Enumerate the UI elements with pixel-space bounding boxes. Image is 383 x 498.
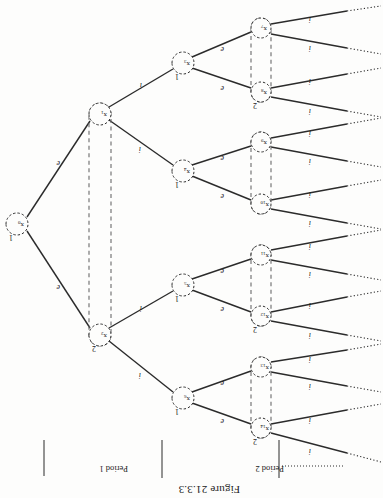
terminal-label-x10-b: i — [309, 190, 311, 199]
edge-label-x6-x14: e — [220, 417, 224, 426]
edge-label-x1-x3: i — [140, 81, 142, 90]
node-label-x14: x14 — [261, 424, 270, 433]
node-label-x13-base: x — [266, 364, 270, 372]
node-circle-x2 — [89, 324, 111, 346]
node-circle-x1 — [89, 103, 111, 125]
node-label-x3-base: x — [187, 60, 191, 68]
node-label-x5-sub: 5 — [184, 281, 187, 286]
node-circle-x5 — [172, 274, 194, 296]
infoset-x1-x2 — [89, 103, 111, 346]
edge-label-x6-x13: e — [220, 379, 224, 388]
edge-x0-x2 — [27, 231, 90, 328]
node-circle-x4 — [172, 160, 194, 182]
node-label-x12: x12 — [261, 312, 270, 321]
node-label-x0: x0 — [18, 220, 24, 229]
dotted-x12-b — [347, 291, 381, 297]
dotted-x9-b — [347, 118, 381, 124]
node-label-x13-sub: 13 — [261, 363, 266, 368]
dotted-x12-a — [347, 335, 381, 341]
node-label-x9-base: x — [264, 139, 268, 147]
terminal-dotted-continuations — [347, 6, 381, 462]
player-tag-x14: 2 — [253, 437, 257, 446]
dotted-x11-a — [347, 274, 381, 280]
edge-label-x0-x1: e — [56, 159, 60, 168]
player-tag-x5: 1 — [175, 294, 179, 303]
node-label-x14-sub: 14 — [261, 424, 266, 429]
figure-title: Figure 21.3.3 — [178, 484, 240, 496]
period-label-1: Period 1 — [99, 464, 128, 474]
player-tag-x2: 2 — [92, 344, 96, 353]
node-label-x1-sub: 1 — [101, 110, 104, 115]
node-label-x11: x11 — [261, 251, 269, 260]
player-tag-x6: 1 — [175, 407, 179, 416]
node-circle-x6 — [172, 387, 194, 409]
terminal-label-x9-b: i — [309, 129, 311, 138]
edge-x2-x6 — [109, 341, 173, 392]
node-label-x0-base: x — [21, 221, 25, 229]
node-label-x0-sub: 0 — [18, 220, 21, 225]
figure-canvas: Figure 21.3.3 Period 1 Period 2 x0 x1 x2… — [0, 0, 383, 498]
node-label-x6: x6 — [184, 394, 190, 403]
terminal-label-x12-a: i — [309, 331, 311, 340]
edge-x1-x4 — [109, 120, 173, 165]
node-label-x13: x13 — [261, 363, 270, 372]
node-label-x7-base: x — [264, 25, 268, 33]
node-label-x6-base: x — [187, 395, 191, 403]
dotted-x9-a — [347, 161, 381, 167]
edge-label-x4-x10: e — [220, 192, 224, 201]
node-label-x10: x10 — [261, 200, 270, 209]
edge-label-x3-x8: e — [220, 84, 224, 93]
node-label-x8: x8 — [261, 88, 267, 97]
edge-label-x2-x6: i — [139, 371, 141, 380]
node-label-x2-base: x — [104, 332, 108, 340]
node-label-x14-base: x — [266, 425, 270, 433]
terminal-label-x11-b: i — [309, 242, 311, 251]
edge-label-x5-x11: e — [220, 267, 224, 276]
information-sets — [89, 18, 271, 438]
period-label-2: Period 2 — [255, 464, 284, 474]
dotted-x13-a — [347, 386, 381, 392]
node-label-x11-base: x — [266, 252, 270, 260]
node-label-x9-sub: 9 — [261, 138, 264, 143]
terminal-label-x12-b: i — [309, 301, 311, 310]
terminal-label-x8-b: i — [309, 77, 311, 86]
node-label-x2-sub: 2 — [101, 331, 104, 336]
terminal-label-x9-a: i — [309, 157, 311, 166]
terminal-label-x7-b: i — [309, 15, 311, 24]
terminal-label-x14-b: i — [309, 416, 311, 425]
dotted-x8-a — [347, 111, 381, 117]
terminal-label-x8-a: i — [309, 107, 311, 116]
node-label-x5: x5 — [184, 281, 190, 290]
node-label-x4: x4 — [184, 167, 190, 176]
node-label-x1-base: x — [104, 111, 108, 119]
node-label-x11-sub: 11 — [261, 251, 266, 256]
node-label-x4-base: x — [187, 168, 191, 176]
terminal-label-x14-a: i — [309, 447, 311, 456]
node-label-x4-sub: 4 — [184, 167, 187, 172]
terminal-label-x11-a: i — [309, 270, 311, 279]
player-tag-x0: 1 — [9, 233, 13, 242]
tree-graphics — [0, 0, 383, 498]
edge-label-x5-x12: e — [220, 305, 224, 314]
tree-edges — [27, 32, 251, 424]
terminal-label-x10-a: i — [309, 219, 311, 228]
player-tag-x8: 2 — [253, 101, 257, 110]
edge-x0-x1 — [27, 121, 90, 217]
terminal-label-x7-a: i — [309, 44, 311, 53]
player-tag-x12: 2 — [253, 325, 257, 334]
node-circle-x3 — [172, 52, 194, 74]
dotted-x7-a — [347, 48, 381, 54]
node-label-x3-sub: 3 — [184, 59, 187, 64]
node-label-x2: x2 — [101, 331, 107, 340]
node-label-x9: x9 — [261, 138, 267, 147]
edge-label-x3-x7: e — [220, 45, 224, 54]
edge-label-x4-x9: e — [220, 154, 224, 163]
terminal-label-x13-b: i — [309, 355, 311, 364]
node-label-x12-base: x — [266, 313, 270, 321]
terminal-label-x13-a: i — [309, 382, 311, 391]
node-label-x3: x3 — [184, 59, 190, 68]
dotted-x11-b — [347, 230, 381, 236]
node-label-x5-base: x — [187, 282, 191, 290]
period-separators — [44, 440, 343, 478]
dotted-x7-b — [347, 6, 381, 11]
